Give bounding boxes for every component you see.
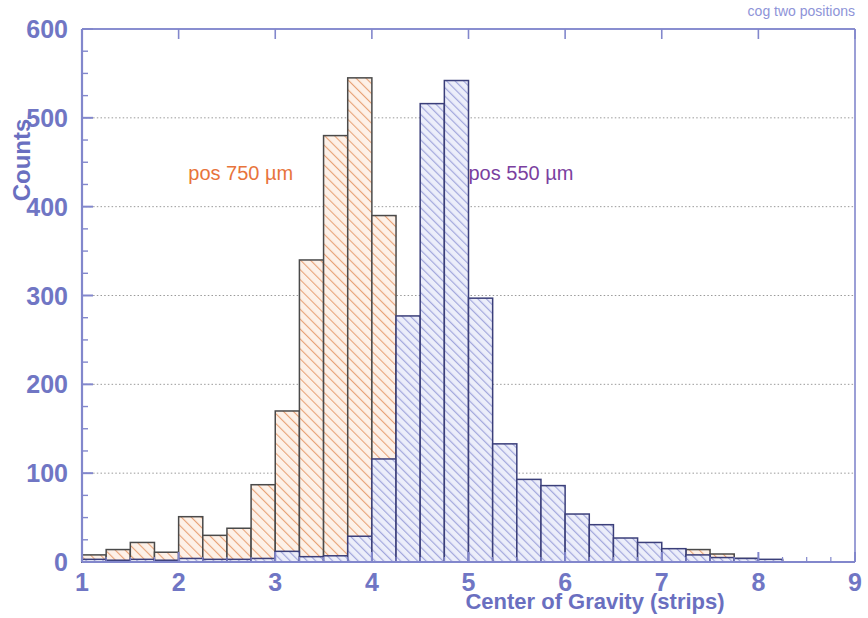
- histogram-bar: [444, 81, 468, 562]
- histogram-bar: [565, 514, 589, 562]
- chart-title: cog two positions: [748, 3, 855, 19]
- histogram-bar: [420, 104, 444, 562]
- histogram-bar: [589, 525, 613, 562]
- histogram-bar: [299, 260, 323, 562]
- y-tick-label: 0: [54, 548, 68, 576]
- y-tick-label: 100: [26, 459, 68, 487]
- x-tick-label: 3: [268, 568, 282, 596]
- x-tick-label: 1: [75, 568, 89, 596]
- x-tick-label: 8: [751, 568, 765, 596]
- histogram-bar: [396, 316, 420, 562]
- histogram-bar: [372, 459, 396, 562]
- x-tick-label: 9: [848, 568, 862, 596]
- y-axis-label: Counts: [8, 119, 35, 202]
- histogram-bar: [493, 444, 517, 562]
- histogram-bar: [638, 542, 662, 562]
- histogram-bar: [275, 551, 299, 562]
- histogram-bar: [613, 538, 637, 562]
- y-tick-label: 200: [26, 370, 68, 398]
- chart-canvas: 0100200300400500600123456789 Counts Cent…: [0, 0, 868, 618]
- histogram-bar: [348, 536, 372, 562]
- y-tick-label: 600: [26, 15, 68, 43]
- x-axis-label: Center of Gravity (strips): [465, 589, 724, 614]
- histogram-bar: [517, 479, 541, 562]
- histogram-bar: [251, 485, 275, 562]
- histogram-bar: [348, 78, 372, 562]
- histogram-bar: [662, 549, 686, 562]
- histogram-bar: [227, 528, 251, 562]
- histogram-bar: [541, 486, 565, 562]
- y-tick-label: 300: [26, 282, 68, 310]
- histogram-bar: [203, 535, 227, 562]
- x-tick-label: 4: [365, 568, 379, 596]
- annotation-pos-550: pos 550 µm: [469, 162, 574, 184]
- histogram-bar: [179, 517, 203, 562]
- histogram-bar: [275, 411, 299, 562]
- annotation-pos-750: pos 750 µm: [188, 162, 293, 184]
- x-tick-label: 2: [172, 568, 186, 596]
- histogram-bar: [324, 136, 348, 562]
- histogram-bar: [469, 298, 493, 562]
- histogram-chart: 0100200300400500600123456789 Counts Cent…: [0, 0, 868, 618]
